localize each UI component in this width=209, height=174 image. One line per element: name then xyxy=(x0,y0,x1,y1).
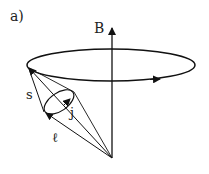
vector-diagram xyxy=(0,0,209,174)
precession-ellipse xyxy=(27,49,195,81)
precession-direction-arrow xyxy=(150,79,160,80)
l-vector xyxy=(46,113,112,158)
small-precession-ellipse xyxy=(40,85,78,119)
diagram: a) B s j ℓ xyxy=(0,0,209,174)
j-arrow xyxy=(64,99,70,105)
